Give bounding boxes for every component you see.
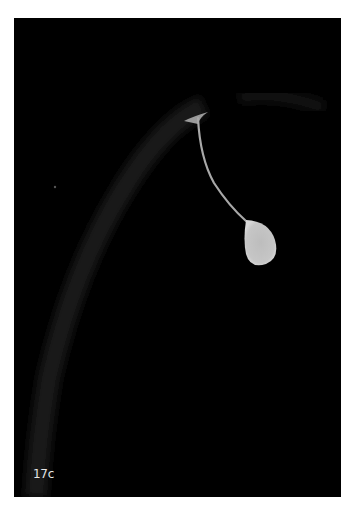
- faint-arc: [36, 96, 324, 497]
- droplet-illustration: [14, 18, 341, 497]
- image-panel: 17c: [14, 18, 341, 497]
- panel-label: 17c: [33, 467, 54, 481]
- droplet: [184, 112, 276, 265]
- speck: [54, 186, 56, 188]
